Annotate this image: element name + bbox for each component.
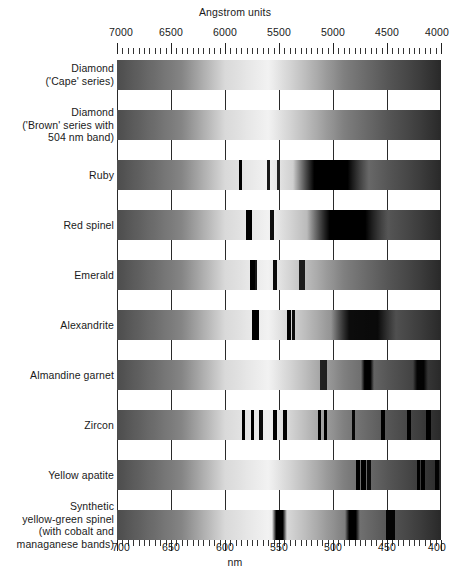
axis-minor-tick bbox=[133, 48, 134, 54]
axis-minor-tick bbox=[209, 48, 210, 54]
gridline bbox=[440, 90, 441, 110]
axis-minor-tick bbox=[182, 48, 183, 54]
gridline bbox=[171, 490, 172, 510]
axis-minor-tick bbox=[176, 48, 177, 54]
absorption-band bbox=[292, 310, 295, 340]
absorption-band bbox=[254, 260, 257, 290]
gridline bbox=[440, 190, 441, 210]
absorption-band bbox=[407, 410, 411, 440]
gridline-group bbox=[117, 340, 441, 360]
gridline bbox=[440, 340, 441, 360]
absorption-band bbox=[239, 160, 242, 190]
row-label-emerald: Emerald bbox=[0, 269, 114, 282]
axis-minor-tick bbox=[295, 48, 296, 54]
tick-label: 700 bbox=[112, 541, 130, 553]
absorption-band bbox=[417, 460, 420, 490]
row-label-line: yellow-green spinel bbox=[0, 513, 114, 526]
gridline bbox=[117, 90, 118, 110]
spectrum-strip-red-spinel bbox=[117, 210, 441, 240]
gridline bbox=[117, 140, 118, 160]
row-label-zircon: Zircon bbox=[0, 419, 114, 432]
top-axis-tick-labels: 7000650060005500500045004000 bbox=[0, 26, 470, 38]
gridline bbox=[440, 290, 441, 310]
gridline bbox=[333, 140, 334, 160]
spectrum-strip-diamond-brown bbox=[117, 110, 441, 140]
axis-minor-tick bbox=[236, 48, 237, 54]
spectrum-strip-emerald bbox=[117, 260, 441, 290]
tick-label: 7000 bbox=[109, 26, 133, 38]
gridline bbox=[279, 340, 280, 360]
gridline bbox=[333, 90, 334, 110]
axis-minor-tick bbox=[193, 48, 194, 54]
axis-minor-tick bbox=[274, 48, 275, 54]
row-label-line: ('Brown' series with bbox=[0, 119, 114, 132]
spectrum-row-diamond-brown: Diamond('Brown' series with504 nm band) bbox=[0, 110, 470, 140]
spectrum-row-ruby: Ruby bbox=[0, 160, 470, 190]
absorption-band bbox=[307, 210, 388, 240]
tick-label: 4500 bbox=[375, 26, 399, 38]
spectrum-gradient bbox=[117, 210, 441, 240]
gridline bbox=[225, 390, 226, 410]
gridline bbox=[387, 490, 388, 510]
gridline bbox=[387, 240, 388, 260]
gridline bbox=[387, 140, 388, 160]
row-label-line: Yellow apatite bbox=[0, 469, 114, 482]
spectrum-strip-yellow-apatite bbox=[117, 460, 441, 490]
row-label-line: Zircon bbox=[0, 419, 114, 432]
absorption-band bbox=[320, 360, 326, 390]
axis-minor-tick bbox=[160, 48, 161, 54]
axis-minor-tick bbox=[214, 48, 215, 54]
gridline bbox=[225, 140, 226, 160]
row-label-red-spinel: Red spinel bbox=[0, 219, 114, 232]
axis-minor-tick bbox=[268, 48, 269, 54]
tick-label: 4000 bbox=[425, 26, 449, 38]
gridline bbox=[387, 440, 388, 460]
row-label-line: Ruby bbox=[0, 169, 114, 182]
absorption-band bbox=[421, 460, 424, 490]
axis-minor-tick bbox=[139, 48, 140, 54]
axis-minor-tick bbox=[155, 48, 156, 54]
axis-minor-tick bbox=[301, 48, 302, 54]
axis-minor-tick bbox=[166, 48, 167, 54]
axis-minor-tick bbox=[263, 48, 264, 54]
spectrum-row-synthetic-spinel: Syntheticyellow-green spinel(with cobalt… bbox=[0, 510, 470, 540]
gridline bbox=[387, 290, 388, 310]
gridline bbox=[440, 440, 441, 460]
axis-minor-tick bbox=[398, 48, 399, 54]
axis-minor-tick bbox=[290, 48, 291, 54]
spectrum-strip-alexandrite bbox=[117, 310, 441, 340]
row-label-line: Synthetic bbox=[0, 500, 114, 513]
spectrum-gradient bbox=[117, 110, 441, 140]
spectrum-row-yellow-apatite: Yellow apatite bbox=[0, 460, 470, 490]
gridline bbox=[387, 390, 388, 410]
row-label-line: Emerald bbox=[0, 269, 114, 282]
tick-label: 650 bbox=[162, 541, 180, 553]
row-label-alexandrite: Alexandrite bbox=[0, 319, 114, 332]
tick-label: 450 bbox=[378, 541, 396, 553]
axis-minor-tick bbox=[344, 48, 345, 54]
gridline bbox=[225, 440, 226, 460]
gridline bbox=[333, 340, 334, 360]
absorption-band bbox=[435, 460, 438, 490]
axis-minor-tick bbox=[306, 48, 307, 54]
axis-minor-tick bbox=[338, 48, 339, 54]
axis-minor-tick bbox=[198, 48, 199, 54]
tick-label: 400 bbox=[428, 541, 446, 553]
absorption-band bbox=[267, 160, 270, 190]
gridline bbox=[279, 490, 280, 510]
row-label-line: Diamond bbox=[0, 106, 114, 119]
row-label-line: (with cobalt and bbox=[0, 525, 114, 538]
axis-minor-tick bbox=[322, 48, 323, 54]
gridline-group bbox=[117, 140, 441, 160]
spectrum-gradient bbox=[117, 260, 441, 290]
gridline bbox=[333, 240, 334, 260]
row-label-line: Diamond bbox=[0, 62, 114, 75]
absorption-band bbox=[386, 510, 396, 540]
axis-minor-tick bbox=[365, 48, 366, 54]
gridline bbox=[387, 190, 388, 210]
tick-label: 550 bbox=[270, 541, 288, 553]
gridline bbox=[279, 440, 280, 460]
absorption-band bbox=[272, 510, 287, 540]
absorption-band bbox=[331, 310, 396, 340]
spectrum-strip-zircon bbox=[117, 410, 441, 440]
